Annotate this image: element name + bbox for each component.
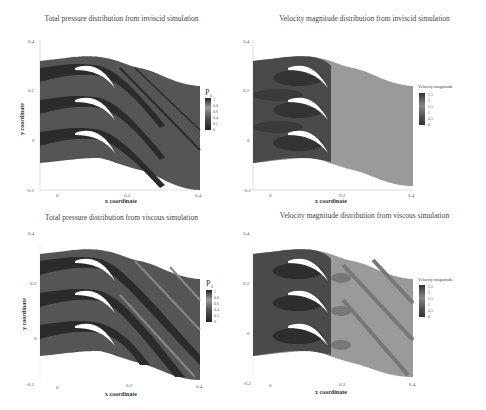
y-axis-label: y coordinate — [21, 298, 27, 330]
pressure-viscous-plot: 0.4 0.2 0 -0.2 0 0.2 0.4 x coordinate y … — [0, 205, 243, 410]
colorbar-tick: 1.5 — [428, 296, 433, 301]
panel-velocity-viscous: Velocity magnitude distribution from vis… — [243, 205, 486, 410]
velocity-inviscid-plot: 0.4 0.2 0 -0.2 0 0.2 0.4 x coordinate Ve… — [243, 0, 486, 205]
ytick: -0.2 — [26, 382, 34, 387]
ytick: -0.2 — [243, 188, 251, 193]
colorbar — [206, 290, 212, 322]
colorbar-tick: 1.5 — [428, 104, 433, 109]
ytick: 0 — [247, 138, 250, 143]
colorbar — [205, 98, 211, 130]
colorbar-tick: 0.6 — [214, 301, 219, 306]
colorbar-tick: 0 — [428, 122, 430, 127]
colorbar-tick: 2 — [428, 98, 430, 103]
colorbar-tick: 0.2 — [213, 121, 218, 126]
velocity-viscous-plot: 0.4 0.2 0 -0.2 0 0.2 0.4 x coordinate Ve… — [243, 205, 486, 410]
xtick: 0 — [56, 193, 59, 198]
colorbar-tick: 0.4 — [213, 115, 218, 120]
colorbar-tick: 0 — [428, 314, 430, 319]
ytick: 0.2 — [243, 281, 250, 286]
x-axis-label: x coordinate — [105, 198, 137, 204]
colorbar-tick: 2 — [428, 290, 430, 295]
colorbar-tick: 1 — [428, 110, 430, 115]
xtick: 0.2 — [126, 383, 133, 388]
x-axis-label: x coordinate — [315, 198, 347, 204]
colorbar-title: Velocity magnitude — [418, 277, 453, 282]
xtick: 0 — [56, 385, 59, 390]
xtick: 0.4 — [195, 193, 202, 198]
ytick: -0.2 — [26, 188, 34, 193]
colorbar-tick: 0.8 — [213, 103, 218, 108]
ytick: 0 — [32, 138, 35, 143]
colorbar-tick: 0.2 — [214, 313, 219, 318]
xtick: 0.4 — [408, 193, 415, 198]
xtick: 0.2 — [339, 382, 346, 387]
ytick: 0.4 — [28, 39, 35, 44]
x-axis-label: x coordinate — [315, 389, 347, 395]
colorbar-tick: 2.5 — [428, 284, 433, 289]
colorbar-title: Velocity magnitude — [418, 84, 453, 89]
colorbar-subscript: 0 — [211, 284, 213, 289]
ytick: 0 — [247, 331, 250, 336]
colorbar-tick: 0 — [214, 319, 216, 324]
colorbar-tick: 1 — [213, 97, 215, 102]
x-axis-label: x coordinate — [105, 391, 137, 397]
colorbar-tick: 1 — [428, 302, 430, 307]
colorbar-tick: 0.5 — [428, 116, 433, 121]
ytick: -0.2 — [243, 381, 251, 386]
colorbar-tick: 0.5 — [428, 308, 433, 313]
y-axis-label: y coordinate — [19, 103, 25, 135]
colorbar-tick: 0 — [213, 127, 215, 132]
panel-pressure-viscous: Total pressure distribution from viscous… — [0, 205, 243, 410]
colorbar-subscript: 0 — [210, 93, 212, 98]
ytick: 0.2 — [30, 281, 37, 286]
xtick: 0 — [269, 383, 272, 388]
ytick: 0.4 — [243, 231, 250, 236]
xtick: 0.4 — [196, 384, 203, 389]
colorbar — [419, 93, 425, 125]
ytick: 0.2 — [28, 88, 35, 93]
ytick: 0.4 — [243, 39, 250, 44]
colorbar-tick: 2.5 — [428, 92, 433, 97]
xtick: 0 — [269, 193, 272, 198]
colorbar-tick: 0.6 — [213, 109, 218, 114]
colorbar-tick: 0.4 — [214, 307, 219, 312]
ytick: 0.4 — [28, 231, 35, 236]
ytick: 0 — [34, 336, 37, 341]
panel-velocity-inviscid: Velocity magnitude distribution from inv… — [243, 0, 486, 205]
colorbar — [419, 285, 425, 317]
xtick: 0.4 — [409, 382, 416, 387]
colorbar-tick: 1 — [214, 289, 216, 294]
ytick: 0.2 — [243, 88, 250, 93]
colorbar-tick: 0.8 — [214, 295, 219, 300]
pressure-inviscid-plot: 0.4 0.2 0 -0.2 0 0.2 0.4 x coordinate y … — [0, 0, 243, 205]
panel-pressure-inviscid: Total pressure distribution from invisci… — [0, 0, 243, 205]
